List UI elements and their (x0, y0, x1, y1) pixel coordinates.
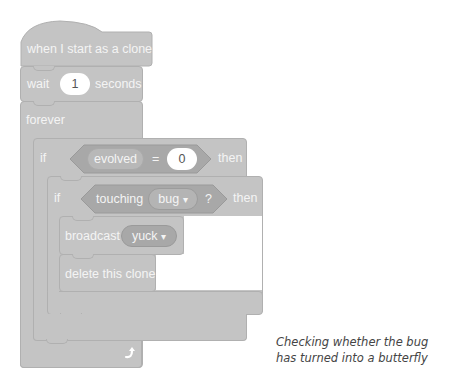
broadcast-notch (72, 254, 94, 259)
dropdown-arrow-icon: ▾ (161, 231, 166, 242)
question-mark: ? (205, 192, 212, 206)
inner-if-mouth-gap (156, 254, 262, 290)
hat-notch (33, 66, 55, 71)
equals-value-input[interactable]: 0 (167, 148, 197, 170)
inner-if-bottom-arm (47, 291, 263, 315)
equals-operator: = (152, 152, 159, 166)
touching-label: touching (96, 192, 143, 206)
caption-line-1: Checking whether the bug (276, 334, 428, 350)
wait-label: wait (27, 77, 49, 91)
forever-label: forever (26, 113, 65, 127)
wait-block[interactable]: wait 1 seconds (20, 66, 143, 102)
inner-if-label: if (54, 191, 60, 205)
arm-join (48, 290, 59, 293)
hat-block[interactable]: when I start as a clone (20, 20, 153, 67)
caption-line-2: has turned into a butterfly (276, 350, 428, 366)
touching-condition[interactable]: touching bug ▾ ? (80, 184, 228, 214)
touching-target: bug (158, 192, 179, 206)
seconds-label: seconds (95, 77, 142, 91)
broadcast-message: yuck (132, 229, 158, 243)
delete-clone-block[interactable]: delete this clone (59, 254, 156, 292)
broadcast-message-dropdown[interactable]: yuck ▾ (121, 225, 177, 247)
arm-join (34, 313, 47, 316)
broadcast-block[interactable]: broadcast yuck ▾ (59, 216, 184, 255)
outer-if-bottom-notch (46, 339, 68, 344)
outer-if-bottom-arm (33, 314, 247, 341)
wait-seconds-input[interactable]: 1 (60, 73, 90, 95)
evolved-variable-reporter[interactable]: evolved (87, 148, 144, 170)
wait-notch (33, 101, 55, 106)
equals-condition[interactable]: evolved = 0 (69, 144, 212, 174)
inner-then-label: then (233, 191, 257, 205)
dropdown-arrow-icon: ▾ (183, 194, 188, 205)
outer-if-label: if (40, 151, 46, 165)
touching-target-dropdown[interactable]: bug ▾ (148, 188, 198, 210)
outer-then-label: then (218, 151, 242, 165)
delete-clone-label: delete this clone (65, 267, 155, 281)
inner-if-mouth-gap-2 (184, 216, 262, 254)
inner-if-notch (72, 216, 94, 221)
broadcast-label: broadcast (65, 229, 120, 243)
outer-if-notch (60, 176, 82, 181)
loop-arrow-icon (123, 346, 137, 360)
figure-caption: Checking whether the bug has turned into… (276, 334, 428, 366)
hat-label: when I start as a clone (27, 42, 152, 56)
